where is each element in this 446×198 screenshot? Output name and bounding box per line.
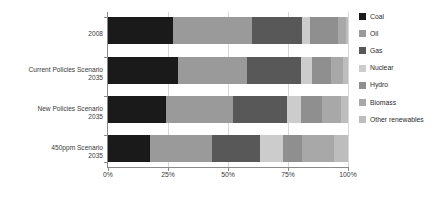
- legend-swatch-icon: [359, 99, 366, 106]
- y-axis-label-line: 2035: [0, 152, 103, 160]
- legend-item-hydro[interactable]: Hydro: [359, 77, 446, 94]
- bar-group: [108, 135, 348, 162]
- bar-segment-gas: [212, 135, 260, 162]
- bar-segment-hydro: [283, 135, 302, 162]
- bar-segment-gas: [233, 96, 287, 123]
- bar-segment-oil: [178, 57, 248, 84]
- bar-segment-oil: [173, 17, 252, 44]
- bar-segment-nuclear: [302, 17, 309, 44]
- legend-swatch-icon: [359, 65, 366, 72]
- x-axis-tick-label: 100%: [339, 170, 356, 179]
- legend-label: Coal: [370, 13, 384, 21]
- bar-segment-coal: [108, 135, 150, 162]
- bar-segment-coal: [108, 17, 173, 44]
- bar-segment-biomass: [322, 96, 341, 123]
- y-axis-label-line: 2035: [0, 113, 103, 121]
- y-axis-label-line: 2035: [0, 74, 103, 82]
- legend-item-nuclear[interactable]: Nuclear: [359, 60, 446, 77]
- x-axis-tick-label: 0%: [103, 170, 113, 179]
- chart-legend: CoalOilGasNuclearHydroBiomassOther renew…: [359, 8, 446, 128]
- bar-segment-coal: [108, 96, 166, 123]
- x-axis-tick-label: 75%: [281, 170, 295, 179]
- bar-segment-other-renewables: [343, 57, 348, 84]
- bar-segment-hydro: [312, 57, 331, 84]
- bar-segment-gas: [247, 57, 301, 84]
- bar-segment-other-renewables: [346, 17, 348, 44]
- legend-swatch-icon: [359, 13, 366, 20]
- legend-item-coal[interactable]: Coal: [359, 8, 446, 25]
- bar-segment-biomass: [338, 17, 345, 44]
- plot-area: [108, 12, 348, 167]
- y-axis-tick: [104, 162, 108, 163]
- legend-swatch-icon: [359, 47, 366, 54]
- bar-segment-hydro: [310, 17, 339, 44]
- x-axis-tick-label: 25%: [161, 170, 175, 179]
- y-axis-label-line: New Policies Scenario: [0, 105, 103, 113]
- y-axis-label: 450ppm Scenario2035: [0, 144, 103, 160]
- legend-label: Gas: [370, 47, 382, 55]
- y-axis-label: Current Policies Scenario2035: [0, 66, 103, 82]
- bar-segment-biomass: [302, 135, 333, 162]
- x-axis-tick-label: 50%: [221, 170, 235, 179]
- y-axis-label: New Policies Scenario2035: [0, 105, 103, 121]
- bar-segment-oil: [150, 135, 212, 162]
- legend-item-oil[interactable]: Oil: [359, 25, 446, 42]
- bar-segment-hydro: [301, 96, 321, 123]
- bar-segment-nuclear: [287, 96, 301, 123]
- legend-swatch-icon: [359, 82, 366, 89]
- legend-label: Biomass: [370, 99, 396, 107]
- legend-item-other-renewables[interactable]: Other renewables: [359, 111, 446, 128]
- legend-item-biomass[interactable]: Biomass: [359, 94, 446, 111]
- bar-segment-other-renewables: [334, 135, 348, 162]
- legend-swatch-icon: [359, 30, 366, 37]
- x-axis-tick-labels: 0%25%50%75%100%: [108, 170, 348, 182]
- bar-segment-gas: [252, 17, 302, 44]
- bar-segment-oil: [166, 96, 233, 123]
- bar-segment-biomass: [331, 57, 343, 84]
- y-axis-category-labels: 2008Current Policies Scenario2035New Pol…: [0, 14, 103, 164]
- bar-group: [108, 17, 348, 44]
- y-axis-label-line: Current Policies Scenario: [0, 66, 103, 74]
- legend-item-gas[interactable]: Gas: [359, 42, 446, 59]
- bar-segment-nuclear: [301, 57, 312, 84]
- legend-swatch-icon: [359, 116, 366, 123]
- bar-segment-other-renewables: [341, 96, 348, 123]
- y-axis-label: 2008: [0, 30, 103, 38]
- legend-label: Oil: [370, 30, 378, 38]
- bar-group: [108, 57, 348, 84]
- bar-group: [108, 96, 348, 123]
- gridline-100: [348, 12, 349, 167]
- stacked-bar-chart: 2008Current Policies Scenario2035New Pol…: [0, 0, 446, 198]
- legend-label: Hydro: [370, 81, 388, 89]
- legend-label: Other renewables: [370, 116, 424, 124]
- y-axis-label-line: 450ppm Scenario: [0, 144, 103, 152]
- y-axis-label-line: 2008: [0, 30, 103, 38]
- bar-segment-nuclear: [260, 135, 283, 162]
- legend-label: Nuclear: [370, 64, 393, 72]
- bar-segment-coal: [108, 57, 178, 84]
